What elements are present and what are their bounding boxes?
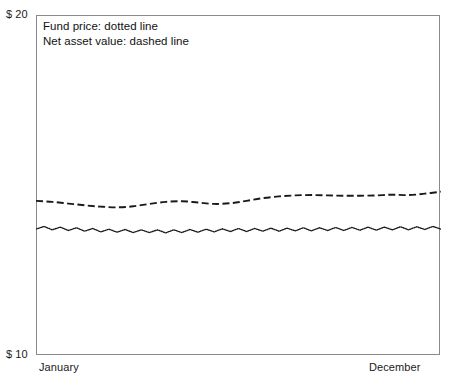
legend-item-net-asset-value: Net asset value: dashed line <box>43 34 189 49</box>
y-axis-label-bottom: $ 10 <box>6 348 28 360</box>
legend-item-fund-price: Fund price: dotted line <box>43 19 189 34</box>
legend: Fund price: dotted line Net asset value:… <box>43 19 189 49</box>
x-axis-label-january: January <box>39 361 79 373</box>
fund-price-chart: $ 20 $ 10 January December Fund price: d… <box>0 0 461 387</box>
plot-frame <box>36 15 440 355</box>
y-axis-label-top: $ 20 <box>6 8 28 20</box>
x-axis-label-december: December <box>369 361 421 373</box>
